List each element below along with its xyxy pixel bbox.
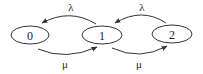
edge-2-to-1: λ bbox=[115, 1, 166, 23]
node-1-label: 1 bbox=[99, 29, 105, 43]
node-0-label: 0 bbox=[27, 29, 33, 43]
arrow-1-to-0 bbox=[42, 16, 96, 24]
state-diagram: 0 1 2 λ λ μ μ bbox=[0, 0, 203, 74]
edge-1-to-2-label: μ bbox=[136, 58, 142, 70]
edge-1-to-0-label: λ bbox=[68, 1, 74, 13]
edge-2-to-1-label: λ bbox=[139, 1, 145, 13]
state-node-2: 2 bbox=[152, 25, 192, 43]
edge-0-to-1: μ bbox=[38, 47, 97, 70]
arrow-0-to-1 bbox=[38, 47, 97, 55]
arrow-2-to-1 bbox=[115, 15, 166, 23]
edge-1-to-2: μ bbox=[112, 46, 167, 70]
edge-1-to-0: λ bbox=[42, 1, 96, 24]
state-node-1: 1 bbox=[82, 26, 122, 44]
node-2-label: 2 bbox=[169, 28, 175, 42]
state-node-0: 0 bbox=[11, 26, 49, 44]
edge-0-to-1-label: μ bbox=[62, 58, 68, 70]
arrow-1-to-2 bbox=[112, 46, 167, 54]
